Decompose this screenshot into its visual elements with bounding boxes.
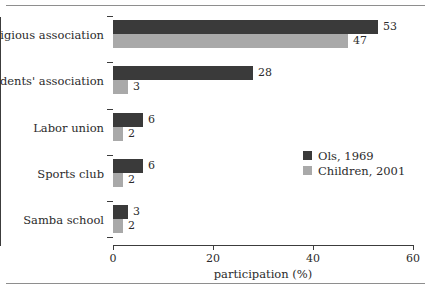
legend-item-0: Ols, 1969 [303, 149, 405, 162]
x-axis-tick [213, 245, 214, 250]
bar-series-1 [113, 34, 348, 48]
bar-value-label: 6 [148, 113, 155, 127]
bar-value-label: 47 [353, 34, 367, 48]
bar-group: Samba school32 [113, 205, 413, 233]
bar-value-label: 2 [128, 127, 135, 141]
bar-series-1 [113, 80, 128, 94]
y-axis-tick [107, 155, 113, 156]
bar-value-label: 53 [383, 20, 397, 34]
y-axis-tick [107, 16, 113, 17]
x-axis-tick [413, 245, 414, 250]
bar-series-1 [113, 173, 123, 187]
legend-swatch-icon-series-1 [303, 166, 312, 175]
bar-value-label: 2 [128, 173, 135, 187]
y-axis-tick [107, 109, 113, 110]
chart-figure: Religious association5347Residents' asso… [0, 0, 431, 293]
page-rule-top [6, 5, 425, 6]
y-axis-line [0, 17, 1, 246]
bar-series-0 [113, 159, 143, 173]
category-label: Samba school [23, 213, 104, 227]
legend-label-series-0: Ols, 1969 [318, 149, 374, 163]
bar-value-label: 28 [258, 66, 272, 80]
category-label: Residents' association [0, 74, 104, 88]
bar-value-label: 6 [148, 159, 155, 173]
bar-series-0 [113, 205, 128, 219]
legend-swatch-icon-series-0 [303, 151, 312, 160]
bar-series-1 [113, 219, 123, 233]
x-axis-tick [113, 245, 114, 250]
bar-value-label: 3 [133, 205, 140, 219]
x-axis-tick-label: 40 [306, 252, 320, 265]
bar-series-0 [113, 20, 378, 34]
y-axis-tick [107, 62, 113, 63]
bar-series-0 [113, 113, 143, 127]
y-axis-tick [107, 201, 113, 202]
category-label: Religious association [0, 28, 104, 42]
page-rule-bottom [6, 283, 425, 284]
bar-value-label: 2 [128, 219, 135, 233]
legend-item-1: Children, 2001 [303, 164, 405, 177]
x-axis-title: participation (%) [113, 267, 413, 281]
bar-series-1 [113, 127, 123, 141]
bar-value-label: 3 [133, 80, 140, 94]
bar-group: Religious association5347 [113, 20, 413, 48]
bar-group: Residents' association283 [113, 66, 413, 94]
category-label: Sports club [37, 167, 104, 181]
category-label: Labor union [33, 121, 104, 135]
plot-area: Religious association5347Residents' asso… [113, 17, 413, 246]
x-axis-tick-label: 20 [206, 252, 220, 265]
chart-legend: Ols, 1969 Children, 2001 [303, 149, 405, 179]
y-axis-tick [107, 237, 113, 238]
bar-series-0 [113, 66, 253, 80]
x-axis-tick-label: 0 [110, 252, 117, 265]
x-axis-tick-label: 60 [406, 252, 420, 265]
legend-label-series-1: Children, 2001 [318, 164, 405, 178]
x-axis-tick [313, 245, 314, 250]
bar-group: Labor union62 [113, 113, 413, 141]
